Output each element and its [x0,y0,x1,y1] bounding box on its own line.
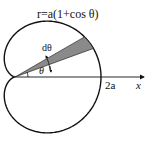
theta-label: θ [39,66,44,76]
cardioid-diagram [0,0,149,145]
x-axis-label: x [136,80,141,91]
area-element-wedge [15,37,93,77]
dtheta-label: dθ [42,43,52,53]
theta-arc [27,72,28,77]
equation-label: r=a(1+cos θ) [37,8,99,20]
two-a-label: 2a [105,80,115,91]
